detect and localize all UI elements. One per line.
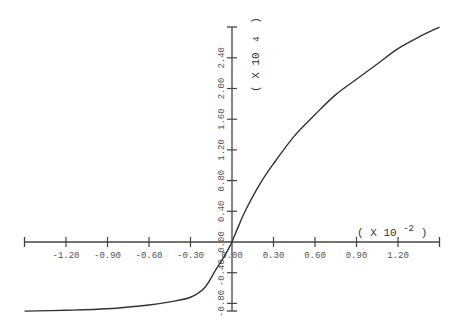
y-tick-label: -0.80 [217, 290, 227, 317]
x-tick-label: -0.30 [177, 251, 204, 261]
x-tick-label: 1.20 [387, 251, 409, 261]
x-tick-label: -0.90 [94, 251, 121, 261]
x-tick-label: -1.20 [52, 251, 79, 261]
chart-canvas: -1.20-0.90-0.60-0.300.000.300.600.901.20… [0, 0, 464, 335]
tick-labels: -1.20-0.90-0.60-0.300.000.300.600.901.20… [52, 47, 408, 317]
y-tick-label: -0.40 [217, 259, 227, 286]
x-tick-label: 0.60 [304, 251, 326, 261]
y-tick-label: 1.20 [217, 139, 227, 161]
x-tick-label: 0.30 [263, 251, 285, 261]
y-tick-label: 0.80 [217, 170, 227, 192]
x-multiplier-label: ( X 10 -2 ) [357, 222, 427, 239]
axes [25, 27, 440, 311]
y-tick-label: 2.00 [217, 78, 227, 100]
y-tick-label: 0.00 [217, 231, 227, 253]
y-tick-label: 0.40 [217, 200, 227, 222]
y-multiplier-label: ( X 10 4 ) [250, 17, 262, 92]
x-tick-label: -0.60 [135, 251, 162, 261]
y-tick-label: 1.60 [217, 108, 227, 130]
x-tick-label: 0.90 [346, 251, 368, 261]
y-tick-label: 2.40 [217, 47, 227, 69]
